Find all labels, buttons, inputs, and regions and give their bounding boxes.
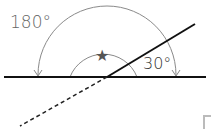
star-icon: ★ <box>95 48 109 64</box>
angle-label-30: 30° <box>143 56 171 72</box>
corner-bracket <box>203 115 211 129</box>
dashed-extension <box>20 77 107 126</box>
angle-label-180: 180° <box>10 14 51 31</box>
